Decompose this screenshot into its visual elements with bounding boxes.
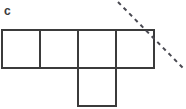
pentomino-diagram (0, 0, 186, 109)
cell-top-3 (78, 30, 116, 68)
cell-top-4 (116, 30, 154, 68)
figure-panel-c: c (0, 0, 186, 109)
square-cells-group (2, 30, 154, 106)
cell-top-1 (2, 30, 40, 68)
cell-bottom-1 (78, 68, 116, 106)
cell-top-2 (40, 30, 78, 68)
